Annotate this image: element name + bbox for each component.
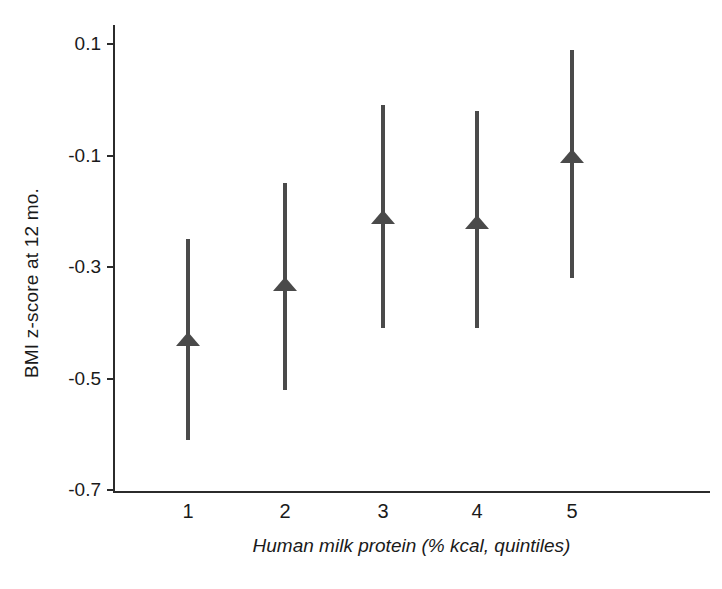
y-tick-label: 0.1 [35, 34, 101, 54]
y-tick-label: -0.1 [35, 146, 101, 166]
y-tick-mark [107, 155, 114, 157]
y-tick-mark [107, 489, 114, 491]
y-tick-mark [107, 43, 114, 45]
y-tick-label-text: 0.1 [39, 34, 101, 53]
data-point-marker [273, 277, 297, 291]
error-bar [570, 50, 574, 279]
data-point-marker [371, 210, 395, 224]
y-tick-label-text: -0.3 [39, 257, 101, 276]
x-tick-label: 5 [552, 500, 592, 523]
data-point-marker [465, 215, 489, 229]
y-tick-label: -0.5 [35, 369, 101, 389]
x-tick-label: 2 [265, 500, 305, 523]
y-tick-label-text: -0.7 [39, 480, 101, 499]
chart-figure: BMI z-score at 12 mo. 0.1-0.1-0.3-0.5-0.… [0, 0, 722, 589]
y-tick-label: -0.7 [35, 480, 101, 500]
y-tick-label-text: -0.1 [39, 146, 101, 165]
data-point-marker [560, 149, 584, 163]
y-tick-mark [107, 266, 114, 268]
x-axis-line [113, 491, 710, 493]
x-tick-label: 3 [363, 500, 403, 523]
y-tick-label: -0.3 [35, 257, 101, 277]
x-tick-label: 4 [457, 500, 497, 523]
y-tick-label-text: -0.5 [39, 369, 101, 388]
y-axis-line [113, 25, 115, 492]
plot-area: 0.1-0.1-0.3-0.5-0.7 12345 [0, 0, 722, 589]
data-point-marker [176, 332, 200, 346]
x-tick-label: 1 [168, 500, 208, 523]
x-axis-title: Human milk protein (% kcal, quintiles) [113, 535, 710, 557]
y-tick-mark [107, 378, 114, 380]
